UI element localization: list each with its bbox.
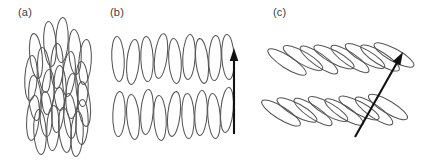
panel-c-label: (c) — [273, 6, 286, 18]
panel-a-label: (a) — [18, 6, 32, 18]
liquid-crystal-phase-figure: (a) (b) (c) — [0, 0, 423, 161]
figure-canvas: (a) (b) (c) — [0, 0, 423, 161]
figure-background — [0, 0, 423, 161]
panel-b-label: (b) — [110, 6, 124, 18]
